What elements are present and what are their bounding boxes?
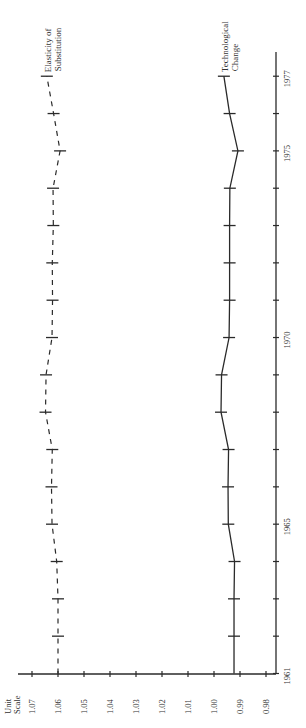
series-label: Substitution [53,27,63,71]
value-tick-label: 1.00 [209,699,219,714]
year-tick-label: 1977 [282,70,292,87]
series-label: Technological [220,21,230,72]
series-technological-change: TechnologicalChange [215,21,244,674]
value-tick-label: 1.04 [105,698,115,714]
value-tick-label: 1.06 [53,699,63,714]
value-tick-label: 1.07 [27,699,37,714]
series-label: Elasticity of [43,28,53,72]
year-tick-label: 1975 [282,145,292,162]
year-tick-label: 1965 [282,518,292,535]
value-tick-label: 1.05 [79,699,89,714]
series-label: Change [230,44,240,72]
year-tick-label: 1961 [282,668,292,685]
value-tick-label: 1.01 [183,699,193,714]
value-tick-label: 0.99 [235,699,245,714]
value-tick-label: 1.02 [157,699,167,714]
y-axis-title-line-2: Scale [12,695,22,714]
value-tick-label: 0.98 [261,699,271,714]
series-elasticity-of-substitution: Elasticity ofSubstitution [40,27,67,673]
series-layer: Elasticity ofSubstitutionTechnologicalCh… [40,21,244,674]
rotated-line-chart: 1.071.061.051.041.031.021.011.000.990.98… [0,0,306,728]
year-tick-label: 1970 [282,332,292,349]
value-tick-label: 1.03 [131,699,141,714]
value-axis-ticks: 1.071.061.051.041.031.021.011.000.990.98 [27,671,271,714]
